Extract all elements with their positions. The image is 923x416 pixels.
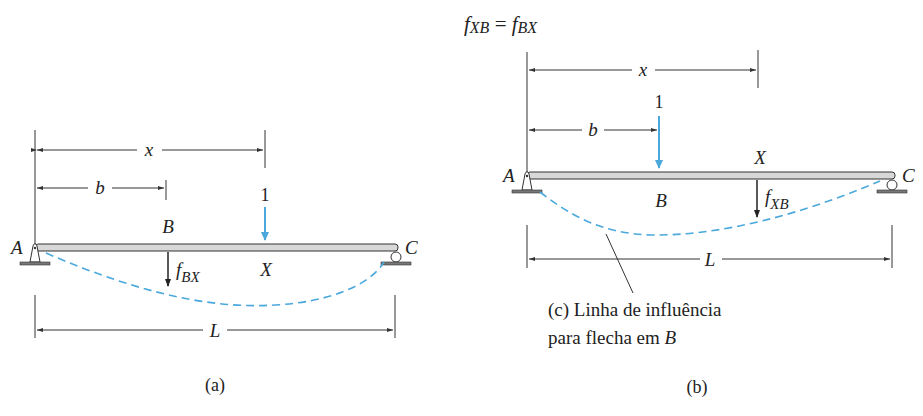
figure-a: x b 1 B A C fBX X [9, 130, 418, 396]
point-b-label-b: B [655, 190, 667, 211]
beam-b [527, 172, 895, 179]
deflection-fbx-label: fBX [176, 259, 200, 285]
load-value-b: 1 [655, 92, 664, 112]
diagram-canvas: x b 1 B A C fBX X [0, 0, 923, 416]
caption-leader-line [606, 234, 633, 293]
figure-b: fXB = fBX x 1 b X A [464, 12, 915, 398]
influence-caption-line1: (c) Linha de influência [548, 299, 722, 321]
deflected-shape-curve [46, 253, 384, 306]
caption-b: (b) [687, 377, 708, 398]
point-x-label: X [259, 259, 273, 280]
dim-b-label: b [95, 177, 105, 198]
dim-l-label: L [209, 320, 221, 341]
dim-x-label-b: x [638, 59, 648, 80]
dim-x-label: x [144, 139, 154, 160]
influence-caption-line2: para flecha em B [548, 327, 677, 348]
support-c-label: C [405, 237, 418, 258]
dim-b-label-b: b [588, 119, 598, 140]
deflection-fxb-label: fXB [765, 186, 789, 212]
load-value: 1 [261, 185, 270, 205]
beam [35, 244, 398, 251]
support-c-label-b: C [902, 165, 915, 186]
point-b-label: B [162, 216, 174, 237]
support-a-label-b: A [501, 165, 515, 186]
dim-l-label-b: L [704, 249, 716, 270]
influence-line-curve [540, 181, 880, 235]
caption-a: (a) [205, 375, 225, 396]
reciprocity-formula: fXB = fBX [464, 12, 538, 36]
point-x-label-b: X [753, 147, 767, 168]
support-a-label: A [9, 237, 23, 258]
